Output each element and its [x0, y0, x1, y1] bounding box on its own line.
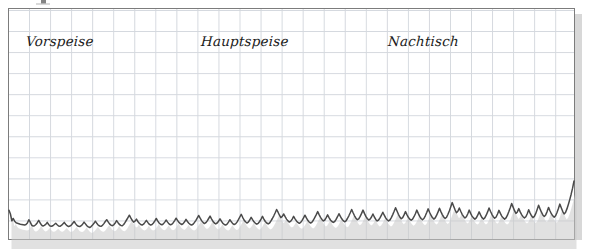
- figure-canvas: Vorspeise Hauptspeise Nachtisch: [0, 0, 590, 249]
- signal-plot: [0, 0, 590, 249]
